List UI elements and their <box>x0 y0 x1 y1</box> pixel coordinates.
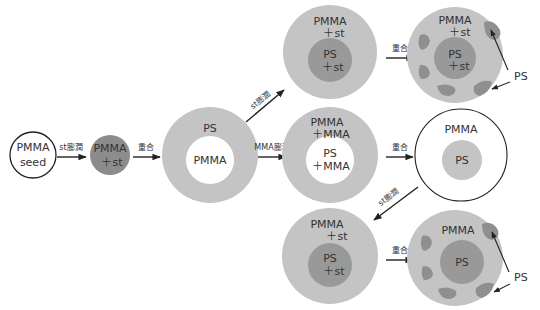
particle-morphology-diagram: PMMA seed st膨潤 PMMA ＋st 重合 PS PMMA st膨潤 … <box>0 0 540 310</box>
arrow-st-swelling-2: st膨潤 <box>246 88 284 122</box>
arrow-st-swelling-3: st膨潤 <box>374 186 418 220</box>
mid-result-particle: PMMA PS <box>415 109 507 201</box>
svg-text:st膨潤: st膨潤 <box>59 142 82 152</box>
svg-text:PMMA: PMMA <box>444 123 478 136</box>
seed-label-2: seed <box>20 156 46 169</box>
svg-text:PMMA: PMMA <box>193 154 227 167</box>
svg-text:PMMA: PMMA <box>441 224 475 237</box>
svg-text:＋st: ＋st <box>101 156 123 169</box>
svg-text:＋MMA: ＋MMA <box>312 160 350 173</box>
svg-text:PS: PS <box>455 154 469 167</box>
svg-text:PS: PS <box>455 256 469 269</box>
svg-text:＋st: ＋st <box>322 61 344 74</box>
top-swollen-particle: PMMA ＋st PS ＋st <box>283 5 377 99</box>
top-result-particle: PMMA ＋st PS ＋st <box>407 7 503 103</box>
svg-text:PS: PS <box>514 70 528 83</box>
seed-label-1: PMMA <box>16 141 50 154</box>
bottom-swollen-particle: PMMA ＋st PS ＋st <box>282 208 378 304</box>
bottom-result-particle: PMMA PS <box>407 210 503 306</box>
arrow-st-swelling-1: st膨潤 <box>57 142 86 157</box>
svg-text:重合: 重合 <box>392 245 408 255</box>
ps-shell-pmma-core-particle: PS PMMA <box>162 107 258 203</box>
svg-text:st膨潤: st膨潤 <box>248 88 272 111</box>
svg-text:＋st: ＋st <box>323 27 345 40</box>
pmma-st-swollen-particle: PMMA ＋st <box>90 135 130 175</box>
mid-swollen-particle: PMMA ＋MMA PS ＋MMA <box>282 107 378 203</box>
svg-text:PS: PS <box>514 271 528 284</box>
svg-text:重合: 重合 <box>138 142 154 152</box>
svg-text:PS: PS <box>323 48 337 61</box>
svg-text:重合: 重合 <box>392 142 408 152</box>
svg-text:＋st: ＋st <box>326 230 348 243</box>
svg-text:＋st: ＋st <box>448 60 470 73</box>
svg-text:st膨潤: st膨潤 <box>376 186 401 208</box>
arrow-polymerize-mid: 重合 <box>386 142 413 157</box>
svg-text:PMMA: PMMA <box>93 142 127 155</box>
arrow-polymerize-1: 重合 <box>133 142 160 157</box>
svg-text:＋st: ＋st <box>449 26 471 39</box>
svg-text:＋st: ＋st <box>323 265 345 278</box>
svg-text:PS: PS <box>203 122 217 135</box>
svg-text:PS: PS <box>323 147 337 160</box>
svg-text:PS: PS <box>323 252 337 265</box>
svg-text:重合: 重合 <box>392 43 408 53</box>
pmma-seed-particle: PMMA seed <box>10 132 56 178</box>
svg-text:＋MMA: ＋MMA <box>312 128 350 141</box>
